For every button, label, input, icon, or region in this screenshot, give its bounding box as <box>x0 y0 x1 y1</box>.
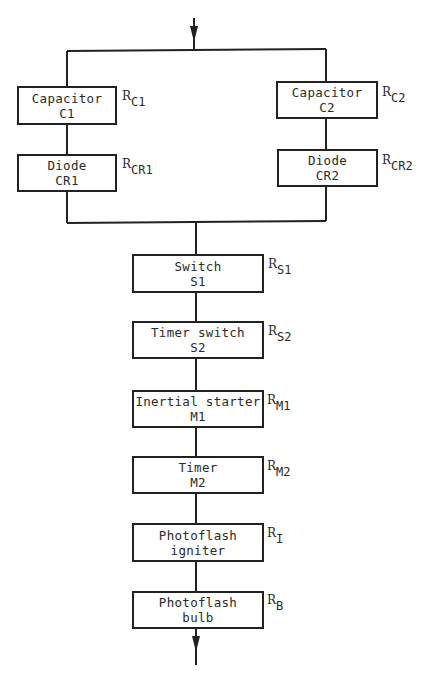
block-label-line2: M2 <box>190 475 206 490</box>
block-label-line1: Diode <box>308 153 347 168</box>
block-label-line1: Inertial starter <box>135 394 260 409</box>
block-label-line2: CR1 <box>55 173 78 188</box>
reliability-label-c1: RC1 <box>122 89 146 103</box>
block-photoflash-bulb: Photoflash bulb <box>132 591 264 629</box>
block-label-line2: bulb <box>182 610 213 625</box>
block-capacitor-c1: Capacitor C1 <box>17 86 117 125</box>
block-timer-m2: Timer M2 <box>132 456 264 494</box>
block-label-line1: Switch <box>175 259 222 274</box>
block-capacitor-c2: Capacitor C2 <box>276 81 378 119</box>
block-timer-switch-s2: Timer switch S2 <box>132 321 264 359</box>
reliability-label-cr2: RCR2 <box>382 153 413 167</box>
block-inertial-starter-m1: Inertial starter M1 <box>132 390 264 428</box>
block-label-line2: CR2 <box>316 168 339 183</box>
reliability-label-bulb: RB <box>267 593 283 607</box>
reliability-label-s2: RS2 <box>268 324 292 338</box>
block-label-line2: igniter <box>171 543 226 558</box>
block-label-line2: S2 <box>190 340 206 355</box>
output-arrowhead-icon <box>192 636 200 652</box>
block-switch-s1: Switch S1 <box>132 254 264 293</box>
reliability-label-c2: RC2 <box>382 85 406 99</box>
block-label-line2: S1 <box>190 274 206 289</box>
input-arrowhead-icon <box>190 26 198 42</box>
block-label-line2: C2 <box>319 100 335 115</box>
block-label-line1: Capacitor <box>32 91 102 106</box>
block-label-line1: Timer <box>178 460 217 475</box>
reliability-label-m1: RM1 <box>267 393 291 407</box>
reliability-label-m2: RM2 <box>267 459 291 473</box>
top-bus-line <box>67 49 326 51</box>
reliability-label-cr1: RCR1 <box>122 157 153 171</box>
block-label-line2: M1 <box>190 409 206 424</box>
block-label-line2: C1 <box>59 106 75 121</box>
block-label-line1: Photoflash <box>159 595 237 610</box>
block-label-line1: Photoflash <box>159 528 237 543</box>
block-diode-cr1: Diode CR1 <box>17 154 117 192</box>
block-label-line1: Capacitor <box>292 85 362 100</box>
block-photoflash-igniter: Photoflash igniter <box>132 523 264 562</box>
block-label-line1: Timer switch <box>151 325 245 340</box>
block-label-line1: Diode <box>47 158 86 173</box>
reliability-label-igniter: RI <box>267 526 283 540</box>
reliability-label-s1: RS1 <box>268 257 292 271</box>
block-diode-cr2: Diode CR2 <box>277 149 378 187</box>
